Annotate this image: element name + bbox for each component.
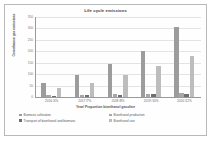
y-axis-line bbox=[35, 17, 36, 97]
bar bbox=[184, 94, 188, 97]
bar bbox=[52, 96, 56, 97]
legend-item[interactable]: Bioethanol use bbox=[109, 119, 199, 123]
bar bbox=[174, 27, 178, 97]
bar bbox=[57, 88, 61, 97]
bar-group bbox=[41, 17, 62, 97]
y-axis-tick-label: 0 bbox=[19, 95, 33, 99]
bar bbox=[46, 95, 50, 97]
legend-swatch-icon bbox=[19, 114, 22, 117]
bar-group bbox=[174, 17, 195, 97]
bar-group bbox=[141, 17, 162, 97]
chart-title: Life cycle emissions bbox=[5, 8, 206, 13]
legend-label: Bioethanol production bbox=[114, 113, 145, 117]
x-axis-line bbox=[35, 97, 201, 98]
bar bbox=[113, 94, 117, 97]
y-axis-tick-label: 350 bbox=[19, 15, 33, 19]
legend-column-left: Biomass cultivationTransport of bioethan… bbox=[19, 113, 109, 124]
bar-group bbox=[75, 17, 96, 97]
legend-label: Biomass cultivation bbox=[24, 113, 51, 117]
bar bbox=[151, 94, 155, 97]
x-axis-tick-label: 2020 /12% bbox=[177, 99, 192, 103]
chart-frame: Life cycle emissions Greenhouse gas emis… bbox=[4, 4, 207, 136]
y-axis-tick-label: 100 bbox=[19, 72, 33, 76]
legend-swatch-icon bbox=[19, 119, 22, 122]
chart-legend: Biomass cultivationTransport of bioethan… bbox=[19, 113, 199, 124]
x-axis-tick-label: 2019 /10% bbox=[144, 99, 159, 103]
x-axis-tick-label: 2018 /8% bbox=[111, 99, 124, 103]
bar bbox=[141, 51, 145, 97]
y-axis-tick-label: 50 bbox=[19, 84, 33, 88]
bar-group bbox=[108, 17, 129, 97]
bar bbox=[179, 93, 183, 97]
legend-column-right: Bioethanol productionBioethanol use bbox=[109, 113, 199, 124]
y-axis-tick-label: 150 bbox=[19, 61, 33, 65]
bar bbox=[85, 95, 89, 97]
y-axis-tick-label: 200 bbox=[19, 49, 33, 53]
plot-area: 050100150200250300350 2016 /4%2017 /7%20… bbox=[35, 17, 201, 97]
bar bbox=[190, 56, 194, 97]
bar bbox=[108, 64, 112, 97]
legend-swatch-icon bbox=[109, 114, 112, 117]
y-axis-title: Greenhouse gas emissions bbox=[12, 4, 16, 66]
bar bbox=[80, 95, 84, 97]
x-axis-title: Year/ Proportion bioethanol gasoline bbox=[5, 105, 206, 109]
legend-label: Bioethanol use bbox=[114, 119, 135, 123]
bar bbox=[123, 75, 127, 97]
x-axis-tick-label: 2016 /4% bbox=[45, 99, 58, 103]
legend-item[interactable]: Bioethanol production bbox=[109, 113, 199, 117]
bar bbox=[118, 95, 122, 97]
bar bbox=[75, 75, 79, 97]
y-axis-tick-label: 250 bbox=[19, 38, 33, 42]
legend-swatch-icon bbox=[109, 119, 112, 122]
legend-item[interactable]: Transport of bioethanol and biomass bbox=[19, 119, 109, 123]
x-axis-tick-label: 2017 /7% bbox=[78, 99, 91, 103]
bar bbox=[41, 83, 45, 97]
bar bbox=[146, 94, 150, 97]
y-axis-tick-label: 300 bbox=[19, 26, 33, 30]
bar bbox=[90, 83, 94, 97]
legend-item[interactable]: Biomass cultivation bbox=[19, 113, 109, 117]
bar bbox=[156, 66, 160, 97]
legend-label: Transport of bioethanol and biomass bbox=[24, 119, 76, 123]
